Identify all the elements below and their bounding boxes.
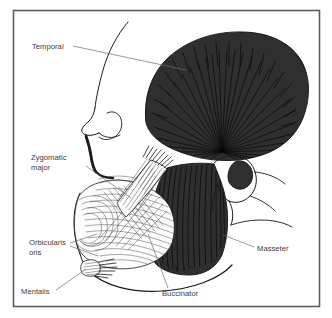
label-temporal: Temporal [32, 42, 64, 51]
leader-mentalis [56, 269, 86, 290]
label-masseter: Masseter [257, 244, 289, 253]
label-mentalis: Mentalis [21, 287, 50, 296]
leader-masseter [223, 235, 254, 247]
anatomy-illustration: Temporal Zygomatic major Orbicularis ori… [0, 0, 332, 318]
label-zygomatic-major-line1: Zygomatic [31, 153, 67, 162]
label-buccinator: Buccinator [162, 289, 199, 298]
temporalis-muscle [145, 30, 309, 161]
label-orbicularis-oris-line2: oris [29, 248, 42, 257]
label-orbicularis-oris-line1: Orbicularis [29, 238, 66, 247]
anatomy-figure: Temporal Zygomatic major Orbicularis ori… [0, 0, 332, 318]
label-zygomatic-major-line2: major [31, 163, 51, 172]
